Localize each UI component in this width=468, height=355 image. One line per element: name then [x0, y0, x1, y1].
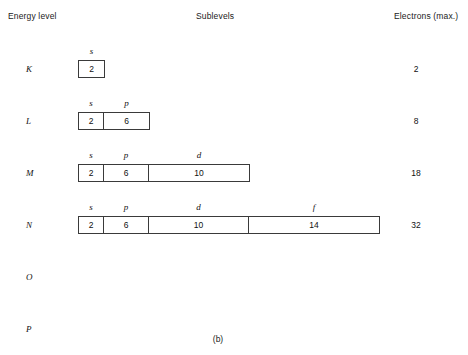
sublevel-letter: f [249, 202, 379, 212]
sublevel-bar: s2p6d10f14 [78, 216, 380, 234]
sublevel-letter: s [79, 202, 103, 212]
sublevel-cell-p: p6 [104, 217, 149, 233]
electrons-max-value: 8 [398, 116, 434, 126]
column-header-energy-level: Energy level [8, 11, 57, 21]
sublevel-cell-p: p6 [104, 165, 149, 181]
sublevel-letter: s [79, 150, 103, 160]
sublevel-cell-s: s2 [79, 113, 104, 129]
shell-label: O [26, 272, 33, 282]
sublevel-electron-count: 2 [89, 64, 94, 74]
sublevel-electron-count: 6 [124, 168, 129, 178]
electrons-max-value: 2 [398, 64, 434, 74]
shell-label: M [26, 168, 34, 178]
sublevel-electron-count: 6 [124, 116, 129, 126]
electrons-max-value: 32 [398, 220, 434, 230]
shell-row: Ks22 [0, 52, 468, 104]
sublevel-electron-count: 2 [89, 220, 94, 230]
shell-label: K [26, 64, 32, 74]
sublevel-cell-f: f14 [249, 217, 379, 233]
sublevel-electron-count: 6 [124, 220, 129, 230]
sublevel-bar: s2p6 [78, 112, 150, 130]
shell-label: L [26, 116, 31, 126]
sublevel-cell-s: s2 [79, 61, 104, 77]
electrons-max-value: 18 [398, 168, 434, 178]
sublevel-electron-count: 2 [89, 168, 94, 178]
figure-caption: (b) [0, 334, 436, 344]
sublevel-letter: d [149, 150, 249, 160]
shell-label: N [26, 220, 32, 230]
sublevel-letter: p [104, 150, 148, 160]
sublevel-cell-d: d10 [149, 217, 249, 233]
sublevel-letter: p [104, 202, 148, 212]
sublevel-cell-p: p6 [104, 113, 149, 129]
shell-row: O [0, 260, 468, 312]
shell-row: Ls2p68 [0, 104, 468, 156]
sublevel-cell-s: s2 [79, 165, 104, 181]
column-header-sublevels: Sublevels [196, 11, 234, 21]
sublevel-bar: s2 [78, 60, 105, 78]
shell-label: P [26, 324, 32, 334]
sublevel-bar: s2p6d10 [78, 164, 250, 182]
sublevel-electron-count: 10 [194, 220, 203, 230]
sublevel-cell-d: d10 [149, 165, 249, 181]
sublevel-letter: s [79, 46, 104, 56]
sublevel-electron-count: 2 [89, 116, 94, 126]
sublevel-electron-count: 14 [309, 220, 318, 230]
shell-row: Ms2p6d1018 [0, 156, 468, 208]
sublevel-cell-s: s2 [79, 217, 104, 233]
shell-row: Ns2p6d10f1432 [0, 208, 468, 260]
sublevel-letter: s [79, 98, 103, 108]
column-header-electrons-max: Electrons (max.) [394, 11, 458, 21]
sublevel-letter: d [149, 202, 248, 212]
energy-level-diagram: Energy level Sublevels Electrons (max.) … [0, 0, 468, 355]
sublevel-electron-count: 10 [194, 168, 203, 178]
sublevel-letter: p [104, 98, 149, 108]
